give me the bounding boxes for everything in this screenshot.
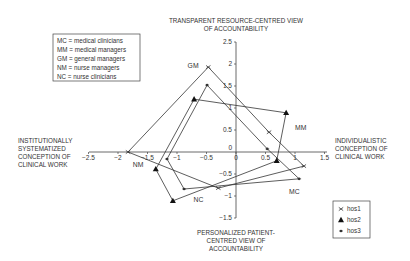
y-tick-label: −1	[225, 192, 233, 199]
axis-title-left: INSTITUTIONALLY SYSTEMATIZED CONCEPTION …	[18, 137, 73, 168]
group-label-nc: NC	[194, 196, 204, 203]
marker-hos3-nm	[165, 158, 169, 161]
y-tick-label: 2.5	[223, 38, 232, 45]
axis-title-right: INDIVIDUALISTIC CONCEPTION OF CLINICAL W…	[335, 137, 388, 160]
x-tick-label: −2	[114, 154, 122, 161]
y-tick-label: −0.5	[219, 170, 232, 177]
axis-title-right-line: CONCEPTION OF	[335, 145, 388, 152]
polygon-hos3	[167, 85, 299, 189]
origin-label: 0	[228, 144, 232, 151]
marker-hos1-mm	[267, 131, 271, 134]
group-label-nm: NM	[133, 161, 144, 168]
axis-title-bottom-line: ACCOUNTABILITY	[209, 245, 264, 252]
axis-title-bottom-line: CENTRED VIEW OF	[207, 237, 266, 244]
legend-entry: NC = nurse clinicians	[57, 73, 116, 80]
series-polygons	[128, 67, 304, 201]
accountability-map: −2.5−2−1.5−1−0.500.511.52.521.510.5−0.5−…	[0, 0, 410, 261]
marker-hos2-mc	[274, 158, 280, 163]
y-tick-label: −1.5	[219, 214, 232, 221]
axis-title-left-line: INSTITUTIONALLY	[18, 137, 73, 144]
group-label-mc: MC	[289, 188, 300, 195]
series-legend: hos1 hos2 hos3	[333, 201, 370, 238]
x-tick-label: 0	[234, 154, 238, 161]
marker-hos1-mc	[302, 164, 306, 167]
group-label-mm: MM	[295, 124, 307, 131]
axis-title-top-line: OF ACCOUNTABILITY	[204, 25, 269, 32]
axis-title-left-line: CONCEPTION OF	[18, 153, 71, 160]
legend-hos1-label: hos1	[347, 205, 361, 212]
axis-title-right-line: INDIVIDUALISTIC	[335, 137, 387, 144]
x-tick-label: −0.5	[200, 154, 213, 161]
legend-hos2-label: hos2	[347, 216, 361, 223]
axis-title-top: TRANSPARENT RESOURCE-CENTRED VIEW OF ACC…	[169, 17, 303, 32]
y-tick-label: 0.5	[223, 126, 232, 133]
legend-hos3-label: hos3	[347, 227, 361, 234]
marker-hos3-nc	[182, 188, 186, 191]
axis-title-bottom: PERSONALIZED PATIENT- CENTRED VIEW OF AC…	[197, 229, 275, 252]
axis-title-left-line: SYSTEMATIZED	[18, 145, 66, 152]
legend-entry: MM = medical managers	[57, 46, 126, 54]
marker-hos1-gm	[206, 65, 210, 68]
legend-entry: MC = medical clinicians	[57, 37, 123, 44]
axis-title-left-line: CLINICAL WORK	[18, 161, 68, 168]
series-markers	[126, 65, 306, 203]
x-tick-label: −2.5	[82, 154, 95, 161]
group-label-gm: GM	[188, 62, 199, 69]
x-tick-label: −1	[173, 154, 181, 161]
x-tick-label: 1.5	[320, 154, 329, 161]
marker-hos2-gm	[191, 96, 197, 101]
abbreviation-legend: MC = medical clinicians MM = medical man…	[53, 34, 140, 81]
y-tick-label: 2	[228, 60, 232, 67]
axis-title-top-line: TRANSPARENT RESOURCE-CENTRED VIEW	[169, 17, 303, 24]
axis-title-bottom-line: PERSONALIZED PATIENT-	[197, 229, 275, 236]
x-tick-label: 0.5	[261, 154, 270, 161]
legend-entry: GM = general managers	[57, 55, 125, 63]
axis-title-right-line: CLINICAL WORK	[335, 153, 385, 160]
group-labels: GMMMMCNCNM	[133, 62, 307, 203]
legend-entry: NM = nurse managers	[57, 64, 119, 72]
marker-hos2-nm	[153, 166, 159, 171]
